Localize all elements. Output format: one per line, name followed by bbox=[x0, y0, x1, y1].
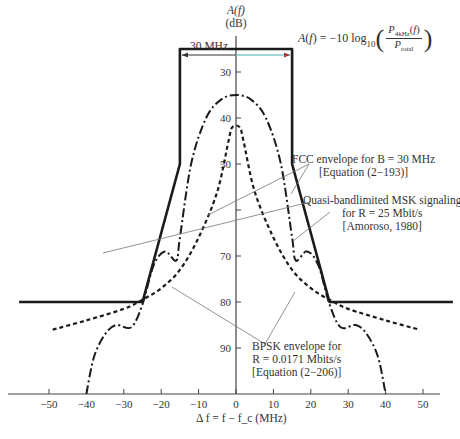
x-tick-label: −40 bbox=[78, 398, 96, 410]
bpsk-leader-left bbox=[172, 287, 265, 344]
fcc-annotation: FCC envelope for B = 30 MHz [Equation (2… bbox=[292, 153, 435, 179]
fcc-leader-far-left bbox=[103, 202, 310, 253]
bandwidth-label: 30 MHz bbox=[190, 40, 228, 53]
bpsk-annotation: BPSK envelope for R = 0.0171 Mbits/s [Eq… bbox=[252, 340, 341, 379]
x-tick-label: 30 bbox=[343, 398, 355, 410]
msk-annotation: Quasi-bandlimited MSK signaling for R = … bbox=[303, 194, 460, 233]
arrowhead-right-icon bbox=[284, 53, 290, 58]
arrowhead-left-icon bbox=[182, 53, 188, 58]
y-tick-label: 80 bbox=[220, 296, 232, 308]
formula: A(f) = −10 log10 ( P4kHz(f) Ptotal ) bbox=[298, 24, 432, 53]
x-tick-label: 40 bbox=[380, 398, 392, 410]
x-tick-label: −10 bbox=[190, 398, 208, 410]
y-tick-label: 70 bbox=[220, 250, 232, 262]
y-axis-title: A(f) (dB) bbox=[218, 4, 254, 30]
y-tick-label: 40 bbox=[220, 112, 232, 124]
x-tick-label: 20 bbox=[305, 398, 317, 410]
chart-figure: −50−40−30−20−1001020304050304050708090 A… bbox=[0, 0, 460, 439]
x-tick-label: −20 bbox=[153, 398, 171, 410]
x-tick-label: 50 bbox=[418, 398, 430, 410]
x-tick-label: 0 bbox=[233, 398, 239, 410]
bpsk-leader-right bbox=[265, 292, 295, 344]
x-tick-label: 10 bbox=[268, 398, 280, 410]
x-axis-title: Δ f = f − f_c (MHz) bbox=[196, 412, 287, 424]
x-tick-label: −30 bbox=[115, 398, 133, 410]
x-tick-label: −50 bbox=[40, 398, 58, 410]
y-tick-label: 30 bbox=[220, 66, 232, 78]
y-tick-label: 90 bbox=[220, 342, 232, 354]
